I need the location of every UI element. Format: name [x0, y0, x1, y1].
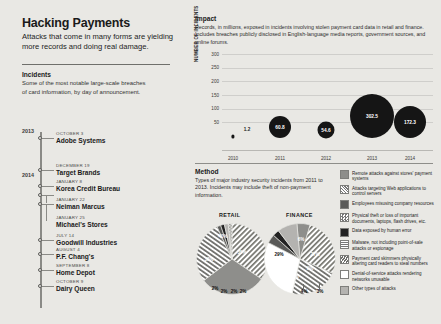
retail-pie-percent: 2%: [231, 289, 238, 294]
method-pie-charts: RETAIL FINANCE 40%35%33%2%2%2%2%6%27%22%…: [193, 196, 338, 316]
retail-pie-percent: 2%: [240, 289, 247, 294]
legend-item[interactable]: Data exposed by human error: [340, 228, 436, 237]
timeline-event-date: SEPTEMBER 8: [56, 264, 95, 268]
timeline-event-date: JANUARY 22: [56, 198, 105, 202]
timeline-axis: [40, 132, 42, 308]
legend-item[interactable]: Other types of attacks: [340, 286, 436, 295]
page-title: Hacking Payments: [22, 16, 174, 30]
legend-swatch: [340, 240, 349, 249]
legend-item[interactable]: Employees misusing company resources: [340, 200, 436, 209]
x-axis-tick: 2010: [228, 156, 238, 161]
timeline-event[interactable]: AUGUST 4P.F. Chang's: [56, 248, 94, 261]
legend-item[interactable]: Remote attacks against stores' payment s…: [340, 170, 436, 182]
y-axis-label: NUMBER OF INCIDENTS: [194, 5, 199, 62]
timeline-connector: [42, 186, 54, 187]
method-section: Method Types of major industry security …: [195, 168, 335, 199]
data-bubble: [231, 135, 234, 138]
legend-swatch: [340, 255, 349, 264]
timeline-event-name: Target Brands: [56, 169, 100, 177]
timeline-connector: [42, 240, 54, 241]
x-axis-tick: 2013: [367, 156, 377, 161]
gridline: [222, 81, 433, 82]
finance-pie-chart: [263, 222, 337, 296]
retail-pie-percent: 35%: [237, 250, 246, 255]
timeline-event-date: JANUARY 25: [56, 216, 108, 220]
timeline-event[interactable]: DECEMBER 19Target Brands: [56, 164, 100, 177]
x-axis-tick: 2012: [321, 156, 331, 161]
divider-2: [195, 163, 433, 164]
y-axis-tick: 150: [203, 93, 219, 98]
timeline-event-date: AUGUST 4: [56, 248, 94, 252]
timeline-connector: [42, 270, 54, 271]
timeline-event[interactable]: JANUARY 22Neiman Marcus: [56, 198, 105, 211]
timeline-event[interactable]: OCTOBER 9Dairy Queen: [56, 280, 95, 293]
legend-item[interactable]: Denial-of-service attacks rendering netw…: [340, 270, 436, 282]
timeline-event-date: OCTOBER 3: [56, 132, 105, 136]
retail-pie-percent: 33%: [204, 257, 213, 262]
y-axis-tick: 300: [203, 52, 219, 57]
timeline-event-date: DECEMBER 19: [56, 164, 100, 168]
timeline-event-name: Dairy Queen: [56, 285, 95, 293]
retail-pie-title: RETAIL: [219, 212, 240, 218]
finance-pie-percent: 29%: [274, 252, 283, 257]
impact-title: Impact: [195, 15, 433, 22]
divider: [22, 64, 170, 65]
finance-pie-percent: 9%: [307, 266, 314, 271]
gridline: [222, 95, 433, 96]
infographic-page: Hacking Payments Attacks that come in ma…: [0, 0, 441, 324]
legend-label: Data exposed by human error: [352, 228, 412, 237]
timeline-elbow: [46, 204, 47, 221]
timeline-event-name: Michael's Stores: [56, 221, 108, 229]
left-column: Hacking Payments Attacks that come in ma…: [22, 16, 174, 96]
legend-swatch: [340, 200, 349, 209]
legend-swatch: [340, 228, 349, 237]
incidents-section-description: Some of the most notable large-scale bre…: [22, 79, 150, 96]
legend-label: Malware, not including point-of-sale att…: [352, 240, 436, 252]
data-bubble-label: 1.2: [244, 127, 250, 132]
timeline-event-name: Neiman Marcus: [56, 203, 105, 211]
finance-pie-percent: 3%: [317, 289, 324, 294]
timeline-connector: [42, 195, 54, 196]
timeline-event[interactable]: OCTOBER 3Adobe Systems: [56, 132, 105, 145]
data-bubble: 60.8: [269, 116, 291, 138]
legend-swatch: [340, 213, 349, 222]
timeline-event-name: Goodwill Industries: [56, 239, 117, 247]
data-bubble: 302.5: [350, 94, 394, 138]
timeline-event-date: OCTOBER 9: [56, 280, 95, 284]
method-legend: Remote attacks against stores' payment s…: [340, 170, 436, 298]
incidents-section-title: Incidents: [22, 71, 174, 78]
timeline-event[interactable]: JANUARY 8Korea Credit Bureau: [56, 180, 120, 193]
timeline-event[interactable]: SEPTEMBER 8Home Depot: [56, 264, 95, 277]
incidents-timeline: 2013 2014 OCTOBER 3Adobe SystemsDECEMBER…: [22, 128, 174, 313]
legend-swatch: [340, 185, 349, 194]
legend-label: Other types of attacks: [352, 286, 396, 295]
retail-pie-percent: 2%: [212, 286, 219, 291]
retail-pie-percent: 40%: [218, 234, 227, 239]
legend-label: Remote attacks against stores' payment s…: [352, 170, 436, 182]
timeline-event-date: JULY 14: [56, 234, 117, 238]
legend-swatch: [340, 170, 349, 179]
legend-item[interactable]: Attacks targeting Web applications to co…: [340, 185, 436, 197]
legend-item[interactable]: Payment card skimmers physically alterin…: [340, 255, 436, 267]
timeline-connector: [42, 170, 54, 171]
legend-swatch: [340, 286, 349, 295]
legend-label: Employees misusing company resources: [352, 200, 434, 209]
legend-swatch: [340, 270, 349, 279]
timeline-event[interactable]: JANUARY 25Michael's Stores: [56, 216, 108, 229]
legend-item[interactable]: Malware, not including point-of-sale att…: [340, 240, 436, 252]
legend-item[interactable]: Physical theft or loss of important docu…: [340, 213, 436, 225]
timeline-year-2014: 2014: [22, 172, 34, 178]
timeline-event[interactable]: JULY 14Goodwill Industries: [56, 234, 117, 247]
gridline: [222, 68, 433, 69]
y-axis-tick: 100: [203, 106, 219, 111]
finance-pie-percent: 22%: [289, 274, 298, 279]
finance-pie-percent: 27%: [310, 252, 319, 257]
data-bubble: 54.6: [318, 121, 335, 138]
finance-pie-title: FINANCE: [286, 212, 313, 218]
timeline-connector: [42, 204, 54, 205]
impact-section: Impact Records, in millions, exposed in …: [195, 15, 433, 46]
y-axis-tick: 200: [203, 79, 219, 84]
timeline-event-name: Home Depot: [56, 269, 95, 277]
finance-pie-percent: 6%: [298, 237, 305, 242]
legend-label: Payment card skimmers physically alterin…: [352, 255, 436, 267]
